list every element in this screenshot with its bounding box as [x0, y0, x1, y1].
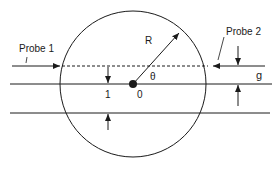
angle-label: θ: [150, 71, 156, 82]
radius-arrow: [133, 33, 179, 84]
gap-g-label: g: [256, 69, 262, 81]
probe1-leader: [26, 57, 27, 63]
probe2-label: Probe 2: [226, 26, 261, 37]
probe2-leader: [218, 37, 224, 60]
center-label: 0: [137, 89, 143, 100]
radius-label: R: [145, 35, 152, 46]
gap1-label: 1: [105, 89, 111, 100]
probe1-label: Probe 1: [19, 43, 54, 54]
diagram-canvas: Probe 1 Probe 2 R θ 0 1 g: [0, 0, 279, 179]
